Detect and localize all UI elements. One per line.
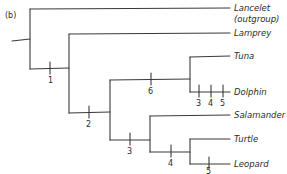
root-stem bbox=[12, 39, 30, 41]
taxon-lancelet-sub: (outgroup) bbox=[234, 14, 279, 24]
taxon-turtle: Turtle bbox=[234, 134, 258, 144]
mark-3b-label: 3 bbox=[127, 147, 132, 156]
branch-lamprey bbox=[69, 33, 230, 34]
branch-tuna-dolphin bbox=[110, 79, 190, 80]
taxon-tuna: Tuna bbox=[234, 51, 254, 61]
mark-6-label: 6 bbox=[148, 87, 153, 96]
mark-3a-label: 3 bbox=[196, 99, 201, 108]
branch-tuna bbox=[190, 56, 230, 57]
mark-2-label: 2 bbox=[86, 120, 91, 129]
mark-5b-label: 5 bbox=[206, 167, 211, 174]
taxon-salamander: Salamander bbox=[234, 110, 286, 120]
taxon-dolphin: Dolphin bbox=[234, 87, 267, 97]
mark-4a-label: 4 bbox=[208, 99, 213, 108]
taxon-lamprey: Lamprey bbox=[234, 28, 272, 38]
cladogram: (b) 1 2 6 3 4 5 3 4 5 Lancelet (outgroup… bbox=[0, 0, 287, 174]
mark-1-label: 1 bbox=[48, 76, 53, 85]
mark-5a-label: 5 bbox=[220, 99, 225, 108]
branch-lancelet bbox=[30, 8, 230, 9]
mark-4b-label: 4 bbox=[168, 159, 173, 168]
panel-label: (b) bbox=[5, 11, 16, 20]
taxon-lancelet: Lancelet bbox=[234, 3, 271, 13]
branch-salamander bbox=[150, 115, 230, 116]
taxon-leopard: Leopard bbox=[234, 159, 269, 169]
